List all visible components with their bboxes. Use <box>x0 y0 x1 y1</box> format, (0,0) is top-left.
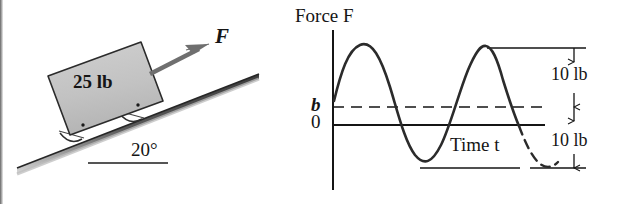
incline-angle-label: 20° <box>131 140 158 159</box>
block-weight-label: 25 lb <box>73 72 113 91</box>
force-label: F <box>215 26 229 47</box>
figure-canvas <box>0 0 618 204</box>
lower-dimension-label: 10 lb <box>551 131 588 149</box>
upper-dimension-label: 10 lb <box>551 65 588 83</box>
x-axis-label: Time t <box>450 135 499 154</box>
y-axis-label: Force F <box>295 6 354 25</box>
graph-panel <box>333 30 586 190</box>
physics-figure: Force F b 0 Time t 10 lb 10 lb 25 lb F 2… <box>0 0 618 204</box>
force-arrow <box>150 44 209 74</box>
zero-label: 0 <box>311 112 321 131</box>
